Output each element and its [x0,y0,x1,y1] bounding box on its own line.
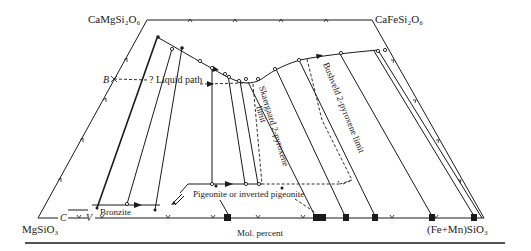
open-point [125,202,128,205]
tie-line [97,38,157,208]
open-point [256,77,259,80]
liquid-path-label: ? Liquid path [149,74,202,85]
open-point [257,182,260,185]
pigeonite-arrow-icon [225,181,233,187]
solid-point [154,209,157,212]
tick-mark [413,100,416,103]
solid-point [96,207,99,210]
open-point [223,72,226,75]
point-v-label: V [86,212,94,223]
corner-label-camgsi2o6: CaMgSi₂O₆ [88,13,140,25]
pigeonite-leader [220,200,228,214]
solid-point [215,185,218,188]
tie-line [374,51,474,216]
bronzite-label: Bronzite [100,207,131,217]
square-marker [372,214,378,221]
liquid-path-dash-right [200,83,245,84]
tick-mark [436,140,439,143]
open-point [170,47,173,50]
bronzite-arrow-icon [134,202,142,208]
pyroxene-quadrilateral-diagram: CaMgSi₂O₆ CaFeSi₂O₆ MgSiO₃ (Fe+Mn)SiO₃ B… [0,0,531,251]
open-point [297,58,300,61]
open-point [244,182,247,185]
open-point [210,182,213,185]
open-point [383,48,386,51]
bushveld-limit-label: Bushveld 2-pyroxene limit [321,61,367,155]
open-point [339,51,342,54]
square-marker [343,214,349,221]
point-c-label: C [60,212,67,223]
square-marker [224,214,231,221]
corner-label-cafesi2o6: CaFeSi₂O₆ [375,13,423,25]
outer-right-trend-line [378,50,482,218]
tie-line [127,49,172,204]
open-point [376,49,379,52]
right-edge [372,20,484,218]
square-marker [313,214,326,221]
square-marker [429,214,435,221]
open-point [273,67,276,70]
solid-point [156,35,160,39]
square-marker [471,214,477,221]
left-edge [38,20,147,218]
corner-label-femnsio3: (Fe+Mn)SiO₃ [427,223,488,236]
pigeonite-inflection [180,184,188,193]
point-b-label: B [103,74,109,85]
liquid-path-arrow-icon [207,81,214,87]
tick-mark [391,60,394,63]
pigeonite-label: Pigeonite or inverted pigeonite [193,189,304,199]
corner-label-mgsio3: MgSiO₃ [22,223,58,235]
open-point [210,66,213,69]
tie-line [155,48,182,210]
open-point [237,79,240,82]
skaergaard-limit-label: Skaergaard 2-pyroxene [257,85,291,168]
solid-point [180,46,184,50]
open-point [227,75,230,78]
open-point [198,59,201,62]
axis-label-mol-percent: Mol. percent [237,228,283,238]
open-point [244,77,247,80]
tie-line [228,75,245,184]
pigeonite-leader-dashed [295,199,316,213]
